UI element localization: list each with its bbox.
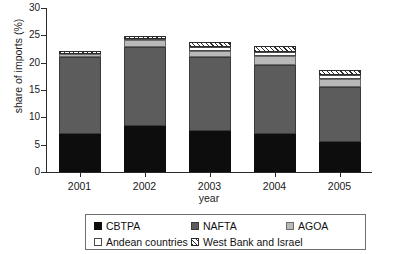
y-tick-label: 5 [6, 140, 40, 150]
bar-2004 [254, 8, 296, 172]
y-tick-label: 0 [6, 167, 40, 177]
bar-segment-west-bank-and-israel [124, 36, 166, 39]
y-tick-label: 25 [6, 30, 40, 40]
bar-segment-west-bank-and-israel [59, 51, 101, 54]
y-tick-mark [41, 90, 46, 91]
legend-swatch-icon [286, 222, 294, 230]
bar-segment-agoa [254, 56, 296, 65]
y-tick-label-wrap: 10 [0, 112, 40, 122]
y-tick-label: 30 [6, 3, 40, 13]
x-tick-mark [80, 172, 81, 177]
legend-swatch-icon [191, 222, 199, 230]
bar-segment-agoa [189, 51, 231, 58]
x-tick-label: 2001 [53, 180, 107, 192]
bar-2002 [124, 8, 166, 172]
y-tick-label-wrap: 30 [0, 3, 40, 13]
bar-segment-agoa [319, 79, 361, 87]
legend-item-andean-countries[interactable]: Andean countries [94, 234, 188, 250]
y-tick-label: 15 [6, 85, 40, 95]
y-tick-mark [41, 8, 46, 9]
bar-2005 [319, 8, 361, 172]
chart-title-clipped [46, 0, 376, 7]
bar-segment-andean-countries [319, 75, 361, 79]
y-tick-label: 20 [6, 58, 40, 68]
bar-segment-west-bank-and-israel [254, 46, 296, 51]
y-tick-mark [41, 117, 46, 118]
x-tick-mark [340, 172, 341, 177]
x-tick-mark [275, 172, 276, 177]
stacked-bar-chart: share of imports (%) year 051015202530 2… [0, 0, 412, 254]
legend-label: Andean countries [106, 237, 188, 248]
bar-segment-west-bank-and-israel [319, 70, 361, 75]
bar-segment-west-bank-and-israel [189, 42, 231, 47]
y-tick-label-wrap: 15 [0, 85, 40, 95]
x-tick-mark [145, 172, 146, 177]
bar-segment-agoa [59, 54, 101, 57]
legend-label: AGOA [298, 221, 328, 232]
y-tick-mark [41, 63, 46, 64]
legend-item-agoa[interactable]: AGOA [286, 218, 328, 234]
x-tick-label: 2002 [118, 180, 172, 192]
bar-segment-nafta [319, 87, 361, 142]
legend-item-cbtpa[interactable]: CBTPA [94, 218, 140, 234]
x-tick-label: 2004 [248, 180, 302, 192]
y-tick-label-wrap: 5 [0, 140, 40, 150]
legend-swatch-icon [191, 238, 199, 246]
plot-area [47, 8, 372, 172]
bar-segment-agoa [124, 40, 166, 47]
legend-label: CBTPA [106, 221, 140, 232]
x-tick-label: 2005 [313, 180, 367, 192]
legend-swatch-icon [94, 222, 102, 230]
x-axis-title: year [46, 192, 372, 204]
bar-segment-cbtpa [254, 134, 296, 172]
bar-segment-nafta [189, 57, 231, 131]
y-tick-label-wrap: 25 [0, 30, 40, 40]
bar-segment-cbtpa [124, 126, 166, 172]
bar-segment-cbtpa [59, 134, 101, 172]
bar-segment-nafta [254, 65, 296, 133]
legend-item-nafta[interactable]: NAFTA [191, 218, 237, 234]
y-tick-label-wrap: 0 [0, 167, 40, 177]
bar-2003 [189, 8, 231, 172]
legend-row: CBTPANAFTAAGOA [86, 218, 365, 234]
legend-row: Andean countriesWest Bank and Israel [86, 234, 365, 250]
chart-legend: CBTPANAFTAAGOA Andean countriesWest Bank… [85, 214, 366, 250]
bar-segment-nafta [124, 47, 166, 126]
bar-segment-nafta [59, 57, 101, 134]
y-tick-mark [41, 35, 46, 36]
bar-segment-cbtpa [319, 142, 361, 172]
y-tick-label: 10 [6, 112, 40, 122]
y-tick-mark [41, 145, 46, 146]
bar-segment-andean-countries [254, 52, 296, 56]
bar-segment-cbtpa [189, 131, 231, 172]
legend-item-west-bank-and-israel[interactable]: West Bank and Israel [191, 234, 303, 250]
x-tick-label: 2003 [183, 180, 237, 192]
y-tick-mark [41, 172, 46, 173]
x-tick-mark [210, 172, 211, 177]
bar-2001 [59, 8, 101, 172]
legend-label: NAFTA [203, 221, 237, 232]
legend-swatch-icon [94, 238, 102, 246]
y-tick-label-wrap: 20 [0, 58, 40, 68]
legend-label: West Bank and Israel [203, 237, 303, 248]
bar-segment-andean-countries [189, 47, 231, 50]
